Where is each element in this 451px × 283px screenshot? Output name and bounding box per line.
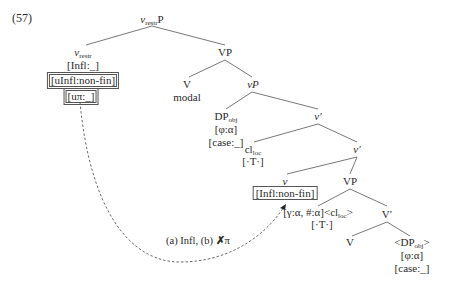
example-number: (57) bbox=[12, 11, 32, 26]
feature-T: [·T·] bbox=[242, 155, 263, 167]
feature-upi: [uπ:_] bbox=[64, 88, 99, 105]
gloss-modal: modal bbox=[173, 91, 201, 103]
cross-icon: ✗ bbox=[216, 234, 225, 246]
feature-case-trace: [case:_] bbox=[395, 262, 430, 274]
node-vrestr: vrestr bbox=[74, 46, 91, 58]
feature-infl-nonfin: [Infl:non-fin] bbox=[253, 187, 318, 199]
node-vbar-2: v′ bbox=[353, 143, 360, 155]
node-VP-top: VP bbox=[218, 46, 232, 58]
feature-infl: [Infl:_] bbox=[67, 59, 99, 71]
node-DPobj-trace: <DPobj> bbox=[394, 236, 429, 248]
node-cl-loc: clloc bbox=[245, 143, 262, 155]
node-vrestrP: vrestrP bbox=[140, 13, 163, 25]
feature-agree: [γ:α, #:α]<clloc> bbox=[283, 206, 353, 218]
node-VP-low: VP bbox=[343, 175, 357, 187]
node-Vbar: V′ bbox=[382, 208, 392, 220]
node-V-modal: V bbox=[183, 78, 191, 90]
feature-phi: [φ:α] bbox=[215, 123, 238, 135]
node-vbar-1: v′ bbox=[314, 110, 321, 122]
feature-phi-trace: [φ:α] bbox=[401, 249, 424, 261]
node-vP: vP bbox=[247, 78, 259, 90]
node-V-low: V bbox=[346, 236, 354, 248]
arrow-annotation: (a) Infl, (b) ✗π bbox=[166, 234, 230, 247]
feature-case: [case:_] bbox=[209, 136, 244, 148]
feature-uinfl: [uInfl:non-fin] bbox=[47, 72, 119, 89]
node-DPobj: DPobj bbox=[214, 110, 237, 122]
feature-T-copy: [·T·] bbox=[311, 218, 332, 230]
